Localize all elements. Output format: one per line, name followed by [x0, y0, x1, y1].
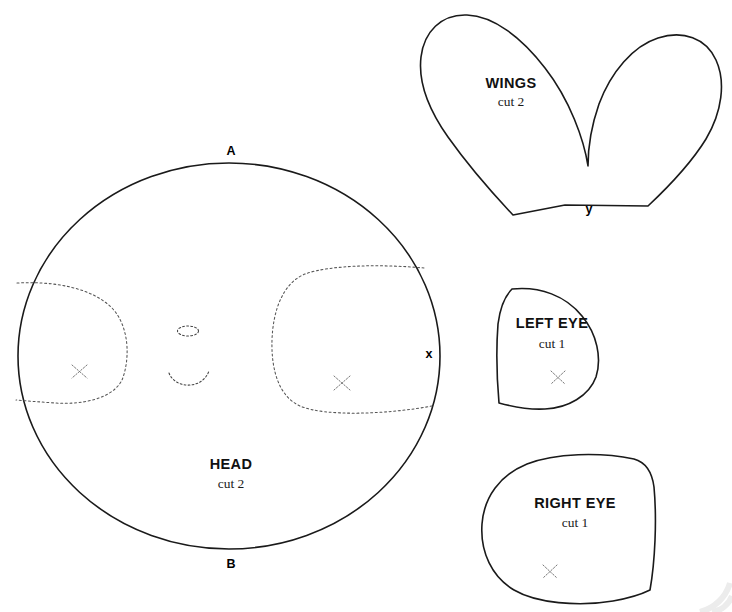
left-eye-title: LEFT EYE: [516, 315, 589, 331]
notch-label-a: A: [226, 144, 235, 158]
wings-cut-outline: [421, 15, 722, 215]
head-quantity: cut 2: [218, 476, 245, 491]
head-left-eye-center-mark: [72, 365, 87, 378]
notch-label-x: x: [426, 347, 433, 361]
head-title: HEAD: [210, 456, 253, 472]
left-eye-quantity: cut 1: [539, 336, 566, 351]
right-eye-title: RIGHT EYE: [534, 495, 616, 511]
head-nose-marking: [178, 326, 199, 336]
right-eye-center-mark: [543, 565, 557, 578]
head-left-eye-placement: [16, 283, 127, 404]
head-cut-outline: [18, 163, 440, 549]
pattern-canvas: HEAD cut 2 A B x WINGS cut 2 y LEFT EYE …: [0, 0, 732, 612]
right-eye-quantity: cut 1: [562, 515, 589, 530]
head-mouth-marking: [169, 371, 209, 385]
left-eye-center-mark: [551, 371, 565, 384]
piece-left-eye: LEFT EYE cut 1: [497, 288, 599, 409]
notch-label-b: B: [226, 557, 235, 571]
pattern-sheet: HEAD cut 2 A B x WINGS cut 2 y LEFT EYE …: [0, 0, 732, 612]
wings-title: WINGS: [485, 75, 536, 91]
piece-right-eye: RIGHT EYE cut 1: [482, 455, 656, 604]
piece-wings: WINGS cut 2 y: [421, 15, 722, 216]
piece-head: HEAD cut 2 A B x: [16, 144, 440, 571]
notch-label-y: y: [586, 202, 593, 216]
head-right-eye-placement: [272, 266, 432, 413]
wings-quantity: cut 2: [498, 94, 525, 109]
head-right-eye-center-mark: [334, 376, 350, 390]
